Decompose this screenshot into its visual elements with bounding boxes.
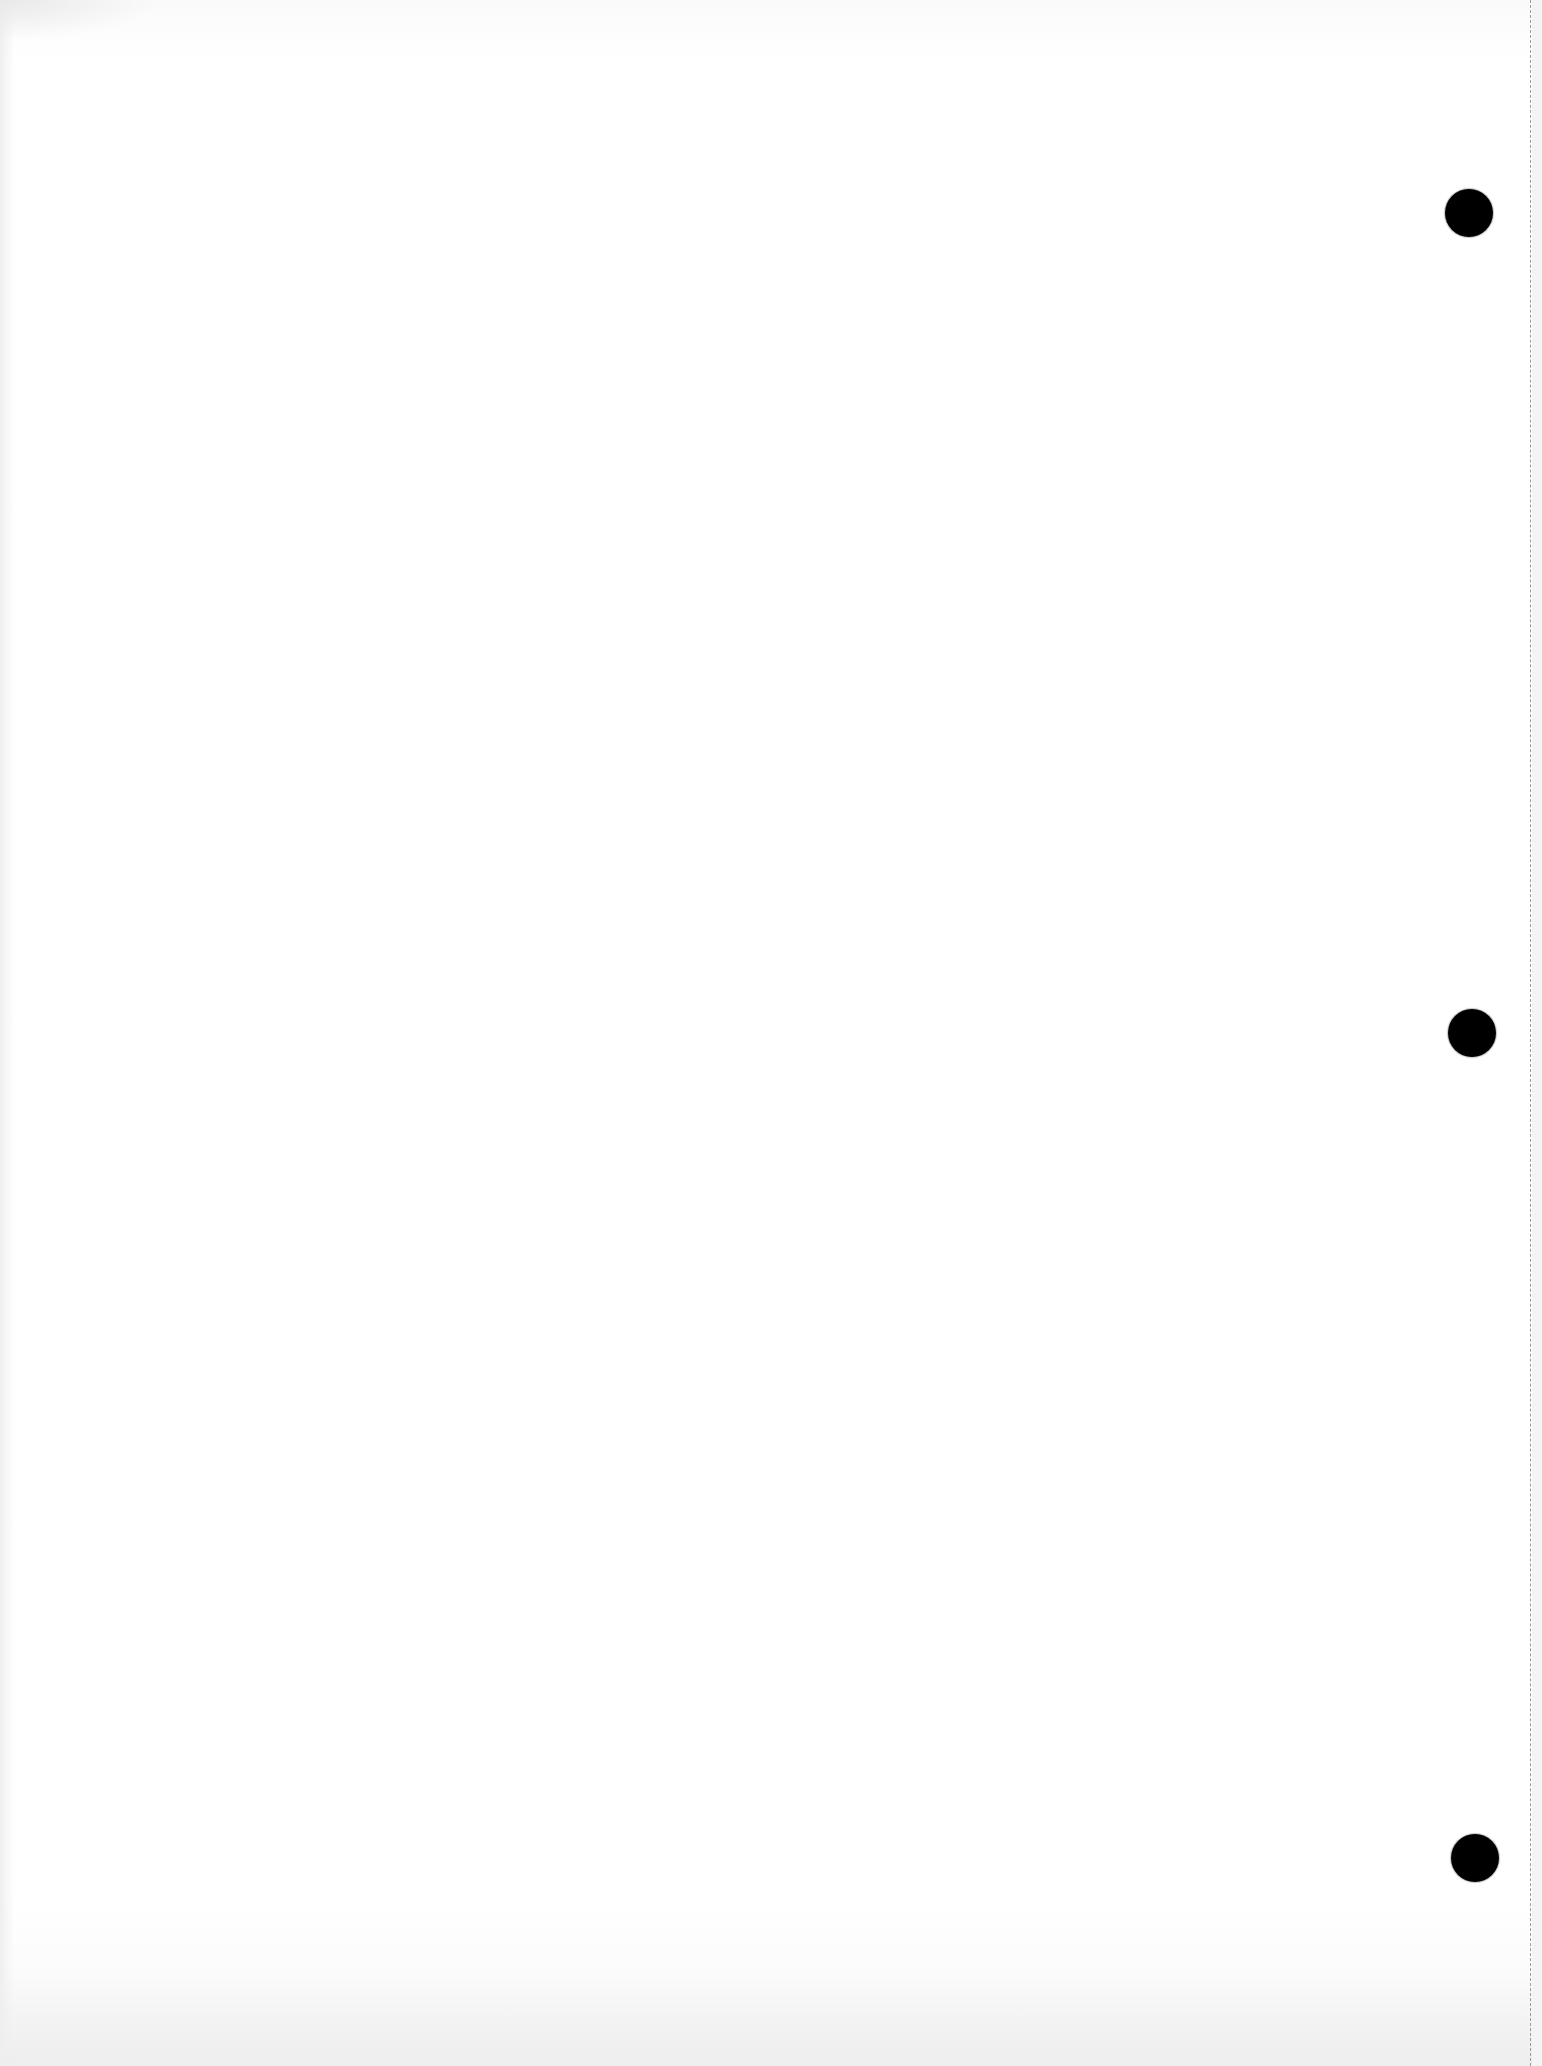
tear-off-margin-strip — [1532, 0, 1542, 2066]
punch-hole-middle — [1448, 1009, 1496, 1057]
perforation-line — [1530, 0, 1531, 2066]
left-edge-shadow — [0, 0, 14, 2066]
paper-sheet — [0, 0, 1542, 2066]
punch-hole-bottom — [1451, 1834, 1499, 1882]
top-left-corner-shadow — [0, 0, 160, 40]
bottom-edge-shadow — [0, 1976, 1542, 2066]
punch-hole-top — [1445, 189, 1493, 237]
